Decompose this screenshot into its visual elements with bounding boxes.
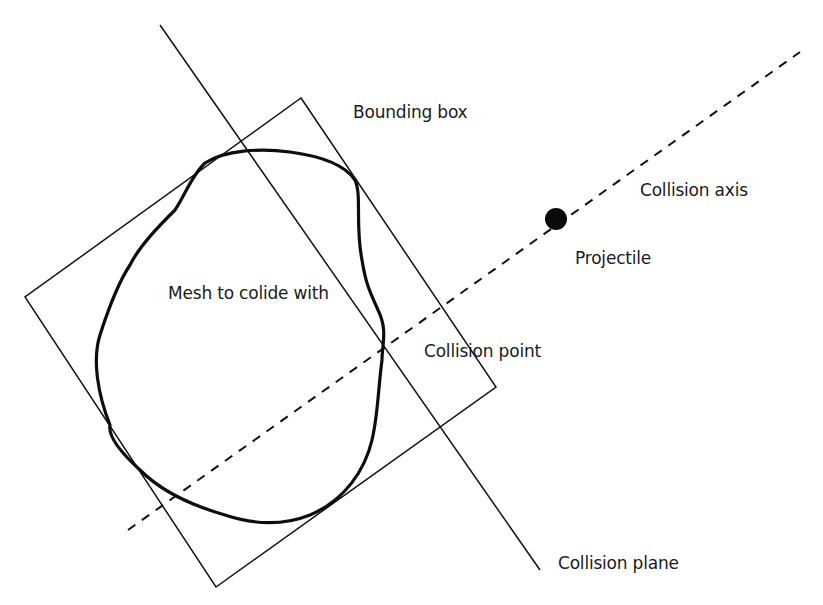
label-bounding-box: Bounding box xyxy=(353,104,467,121)
mesh-outline xyxy=(96,150,383,522)
label-mesh: Mesh to colide with xyxy=(168,285,329,302)
label-collision-point: Collision point xyxy=(424,343,541,360)
collision-diagram xyxy=(0,0,823,605)
label-collision-plane: Collision plane xyxy=(558,555,679,572)
label-collision-axis: Collision axis xyxy=(640,182,748,199)
projectile-dot xyxy=(545,208,567,230)
label-projectile: Projectile xyxy=(575,250,651,267)
